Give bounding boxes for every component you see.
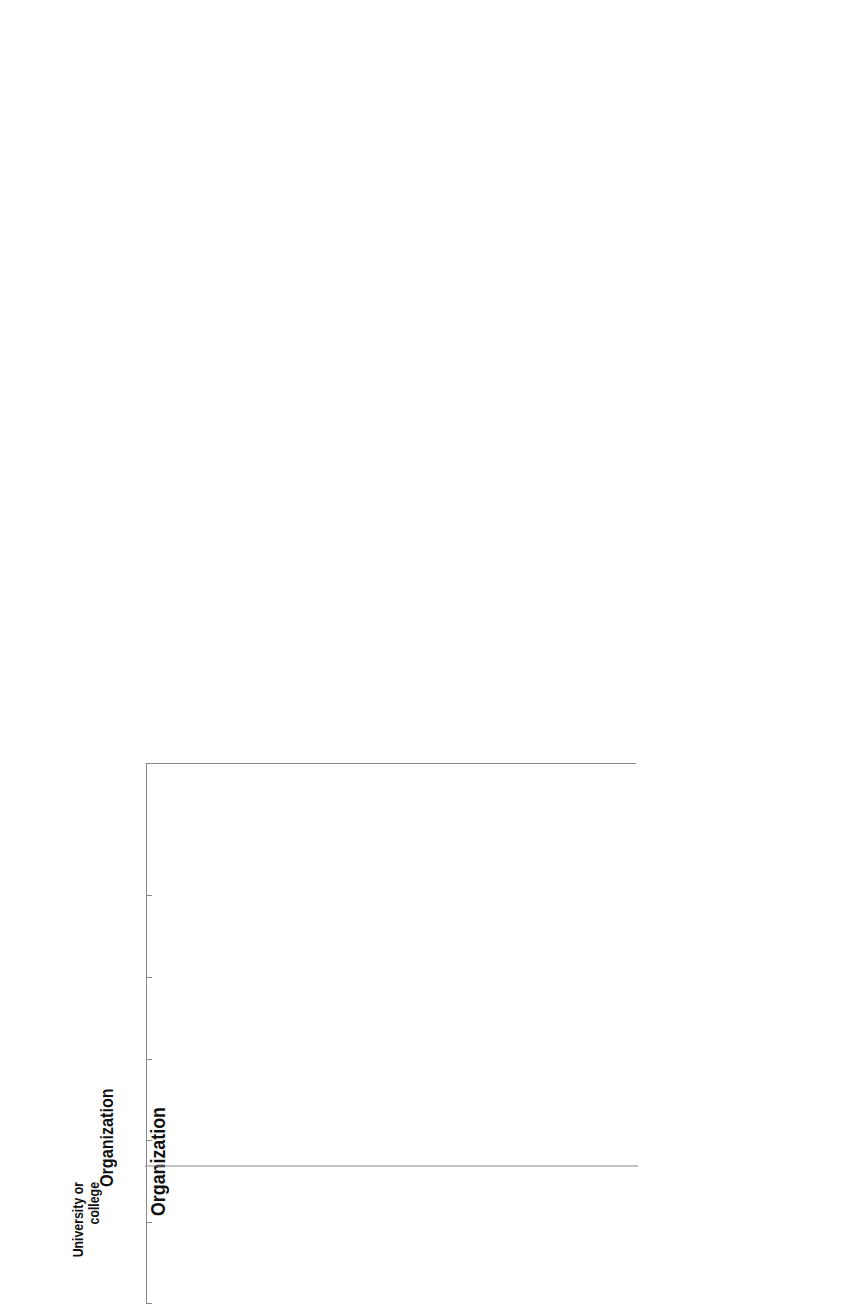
charts-container: Organization [0, 0, 862, 1312]
organization-chart: Organization [145, 1107, 638, 1216]
chart-title: Organization [146, 1107, 170, 1216]
charts-svg: Organization [0, 0, 862, 1312]
